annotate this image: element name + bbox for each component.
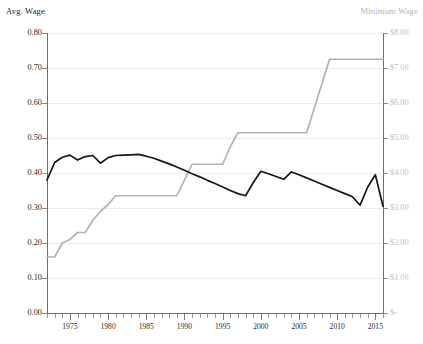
gridline <box>47 173 383 174</box>
x-axis-minor-tick <box>276 314 277 318</box>
x-axis-minor-tick <box>352 314 353 318</box>
x-axis-minor-tick <box>246 314 247 318</box>
x-axis-major-tick <box>375 314 376 320</box>
x-axis-major-tick <box>146 314 147 320</box>
left-axis-tick-label: 0.20 <box>27 238 42 247</box>
avg-wage-line <box>47 154 383 206</box>
x-axis-minor-tick <box>322 314 323 318</box>
x-axis-minor-tick <box>192 314 193 318</box>
x-axis-major-tick <box>108 314 109 320</box>
x-axis-major-tick <box>337 314 338 320</box>
x-axis-minor-tick <box>268 314 269 318</box>
x-axis-minor-tick <box>100 314 101 318</box>
left-axis-tick-label: 0.00 <box>27 308 42 317</box>
x-axis-minor-tick <box>93 314 94 318</box>
left-axis-title: Avg. Wage <box>6 6 45 16</box>
x-axis-minor-tick <box>360 314 361 318</box>
right-axis-tick <box>383 208 388 209</box>
x-axis-minor-tick <box>330 314 331 318</box>
left-axis-tick <box>42 68 47 69</box>
left-axis-tick <box>42 173 47 174</box>
right-axis-tick-label: $4.00 <box>390 168 409 177</box>
x-axis-minor-tick <box>47 314 48 318</box>
x-axis-tick-label: 1995 <box>215 322 230 331</box>
right-axis-tick <box>383 173 388 174</box>
x-axis-minor-tick <box>85 314 86 318</box>
x-axis-minor-tick <box>238 314 239 318</box>
x-axis-minor-tick <box>215 314 216 318</box>
minimum-wage-line <box>47 59 383 257</box>
right-axis-tick-label: $7.00 <box>390 63 409 72</box>
x-axis-minor-tick <box>314 314 315 318</box>
right-axis-tick-label: $8.00 <box>390 28 409 37</box>
x-axis-minor-tick <box>253 314 254 318</box>
x-axis-tick-label: 2005 <box>291 322 306 331</box>
x-axis-minor-tick <box>200 314 201 318</box>
x-axis-major-tick <box>184 314 185 320</box>
right-axis-tick-label: $6.00 <box>390 98 409 107</box>
left-axis-tick <box>42 33 47 34</box>
x-axis-minor-tick <box>307 314 308 318</box>
left-axis-tick <box>42 208 47 209</box>
x-axis-tick-label: 1975 <box>62 322 77 331</box>
x-axis-minor-tick <box>284 314 285 318</box>
left-axis-tick-label: 0.30 <box>27 203 42 212</box>
gridline <box>47 208 383 209</box>
x-axis-tick-label: 1990 <box>177 322 192 331</box>
right-axis-tick-label: $1.00 <box>390 273 409 282</box>
x-axis-minor-tick <box>230 314 231 318</box>
right-axis-tick <box>383 103 388 104</box>
left-axis-tick <box>42 278 47 279</box>
x-axis-minor-tick <box>345 314 346 318</box>
left-axis-tick-label: 0.80 <box>27 28 42 37</box>
left-axis-tick <box>42 243 47 244</box>
right-axis-tick <box>383 33 388 34</box>
series-layer <box>0 0 423 344</box>
x-axis-minor-tick <box>291 314 292 318</box>
x-axis-minor-tick <box>207 314 208 318</box>
left-axis-tick-label: 0.10 <box>27 273 42 282</box>
gridline <box>47 103 383 104</box>
right-axis-tick <box>383 138 388 139</box>
x-axis-tick-label: 2010 <box>330 322 345 331</box>
right-axis-tick <box>383 278 388 279</box>
left-axis-tick <box>42 103 47 104</box>
x-axis-major-tick <box>223 314 224 320</box>
x-axis-tick-label: 1985 <box>139 322 154 331</box>
wage-chart: Avg. Wage Minimum Wage 0.000.100.200.300… <box>0 0 423 344</box>
left-axis-tick-label: 0.70 <box>27 63 42 72</box>
left-y-axis <box>47 33 48 314</box>
right-axis-tick-label: $5.00 <box>390 133 409 142</box>
gridline <box>47 243 383 244</box>
right-axis-tick-label: $2.00 <box>390 238 409 247</box>
right-axis-tick <box>383 243 388 244</box>
x-axis-minor-tick <box>116 314 117 318</box>
left-axis-tick-label: 0.60 <box>27 98 42 107</box>
x-axis-minor-tick <box>131 314 132 318</box>
x-axis-minor-tick <box>162 314 163 318</box>
x-axis-minor-tick <box>154 314 155 318</box>
x-axis-major-tick <box>299 314 300 320</box>
left-axis-tick-label: 0.40 <box>27 168 42 177</box>
x-axis-minor-tick <box>169 314 170 318</box>
x-axis-minor-tick <box>78 314 79 318</box>
x-axis-minor-tick <box>62 314 63 318</box>
left-axis-tick-label: 0.50 <box>27 133 42 142</box>
gridline <box>47 68 383 69</box>
right-axis-tick-label: $- <box>390 308 397 317</box>
gridline <box>47 278 383 279</box>
right-axis-tick-label: $3.00 <box>390 203 409 212</box>
x-axis-tick-label: 2000 <box>253 322 268 331</box>
x-axis-minor-tick <box>177 314 178 318</box>
x-axis-minor-tick <box>123 314 124 318</box>
x-axis-minor-tick <box>368 314 369 318</box>
gridline <box>47 33 383 34</box>
left-axis-tick <box>42 138 47 139</box>
right-axis-tick <box>383 68 388 69</box>
x-axis-tick-label: 2015 <box>368 322 383 331</box>
x-axis-major-tick <box>70 314 71 320</box>
gridline <box>47 138 383 139</box>
x-axis-major-tick <box>261 314 262 320</box>
x-axis-minor-tick <box>383 314 384 318</box>
x-axis-minor-tick <box>55 314 56 318</box>
